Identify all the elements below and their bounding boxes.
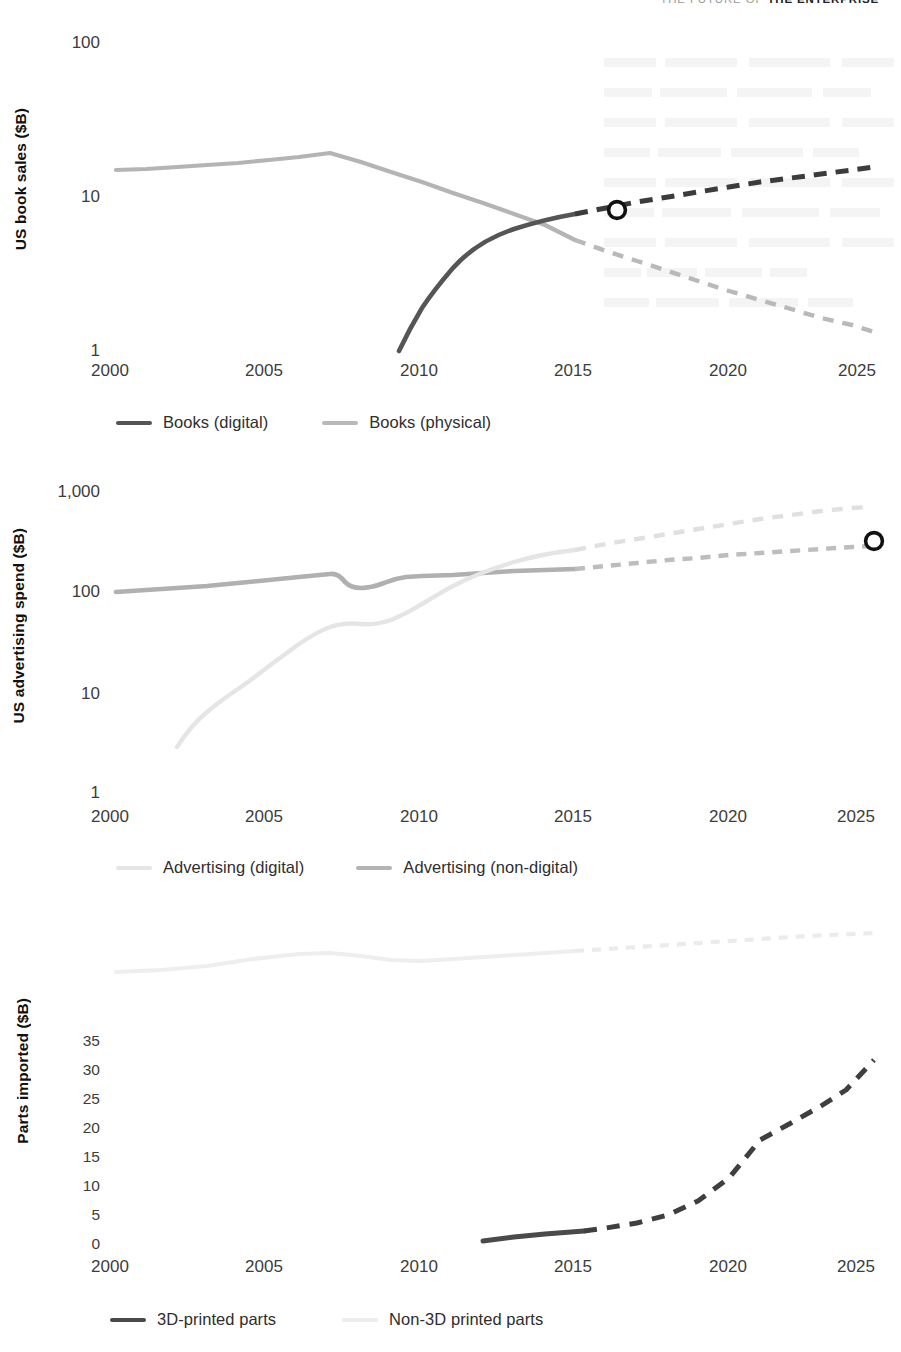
chart1-legend-swatch-books-physical <box>322 421 358 425</box>
chart1-series-books-digital-solid <box>399 214 575 351</box>
chart1-ytick-10: 10 <box>44 188 100 205</box>
chart2-plot-area <box>108 490 882 800</box>
chart-book-sales: US book sales ($B) 100 10 1 2000 2005 20… <box>0 0 901 450</box>
chart3-legend-swatch-non-3d-printed <box>342 1318 378 1322</box>
chart2-xtick-2015: 2015 <box>523 808 623 825</box>
chart3-ytick-20: 20 <box>52 1120 100 1136</box>
chart2-xtick-2025: 2025 <box>806 808 901 825</box>
chart2-series-advertising-digital-solid <box>177 550 575 747</box>
chart3-ytick-0: 0 <box>52 1236 100 1252</box>
chart2-series-advertising-nondigital-solid <box>116 569 575 592</box>
chart1-legend-item-books-digital[interactable]: Books (digital) <box>116 413 268 432</box>
chart3-ytick-5: 5 <box>52 1207 100 1223</box>
chart2-legend-label-advertising-digital: Advertising (digital) <box>163 858 304 877</box>
chart1-legend-label-books-digital: Books (digital) <box>163 413 268 432</box>
chart3-xtick-2000: 2000 <box>60 1258 160 1275</box>
chart1-xtick-2020: 2020 <box>678 362 778 379</box>
chart2-xtick-2010: 2010 <box>369 808 469 825</box>
chart3-xtick-2015: 2015 <box>523 1258 623 1275</box>
chart3-series-3d-printed-solid <box>483 1231 584 1241</box>
chart2-xtick-2000: 2000 <box>60 808 160 825</box>
chart3-xtick-2005: 2005 <box>214 1258 314 1275</box>
chart1-ytick-1: 1 <box>44 342 100 359</box>
chart1-series-books-physical-solid <box>116 153 575 240</box>
chart2-ytick-10: 10 <box>30 685 100 702</box>
chart1-series-books-physical-forecast <box>575 240 874 332</box>
chart3-legend-label-non-3d-printed: Non-3D printed parts <box>389 1310 543 1329</box>
chart3-series-non3d-forecast <box>575 933 874 951</box>
chart-parts-imported: Parts imported ($B) 35 30 25 20 15 10 5 … <box>0 910 901 1352</box>
chart2-xtick-2005: 2005 <box>214 808 314 825</box>
chart3-upper-series-area <box>108 928 882 998</box>
chart3-xtick-2020: 2020 <box>678 1258 778 1275</box>
chart-advertising-spend: US advertising spend ($B) 1,000 100 10 1… <box>0 450 901 910</box>
chart2-y-axis-title: US advertising spend ($B) <box>10 528 28 723</box>
chart2-series-advertising-nondigital-forecast <box>575 546 870 569</box>
chart1-legend-label-books-physical: Books (physical) <box>369 413 491 432</box>
chart3-ytick-35: 35 <box>52 1033 100 1049</box>
chart2-ytick-1: 1 <box>30 784 100 801</box>
chart1-crossover-marker <box>609 202 626 219</box>
chart3-legend-label-3d-printed: 3D-printed parts <box>157 1310 276 1329</box>
chart3-series-non3d-solid <box>116 951 575 972</box>
chart1-ytick-100: 100 <box>44 34 100 51</box>
chart2-legend-swatch-advertising-nondigital <box>356 866 392 870</box>
chart1-xtick-2010: 2010 <box>369 362 469 379</box>
chart3-xtick-2010: 2010 <box>369 1258 469 1275</box>
chart1-xtick-2000: 2000 <box>60 362 160 379</box>
chart3-ytick-10: 10 <box>52 1178 100 1194</box>
chart2-legend-item-advertising-digital[interactable]: Advertising (digital) <box>116 858 304 877</box>
chart3-plot-area <box>108 1038 882 1248</box>
chart3-ytick-30: 30 <box>52 1062 100 1078</box>
chart2-xtick-2020: 2020 <box>678 808 778 825</box>
chart2-legend-item-advertising-nondigital[interactable]: Advertising (non-digital) <box>356 858 578 877</box>
chart3-legend-swatch-3d-printed <box>110 1318 146 1322</box>
chart3-ytick-15: 15 <box>52 1149 100 1165</box>
chart2-legend-swatch-advertising-digital <box>116 866 152 870</box>
chart2-ytick-100: 100 <box>30 583 100 600</box>
chart1-xtick-2025: 2025 <box>807 362 901 379</box>
chart2-series-advertising-digital-forecast <box>575 507 868 550</box>
chart1-legend-swatch-books-digital <box>116 421 152 425</box>
chart3-series-3d-printed-forecast <box>584 1060 874 1231</box>
chart3-legend-item-non-3d-printed[interactable]: Non-3D printed parts <box>342 1310 543 1329</box>
chart3-y-axis-title: Parts imported ($B) <box>14 998 32 1144</box>
chart2-legend: Advertising (digital) Advertising (non-d… <box>116 858 578 877</box>
chart1-xtick-2015: 2015 <box>523 362 623 379</box>
chart2-crossover-marker <box>866 533 883 550</box>
chart2-ytick-1000: 1,000 <box>30 483 100 500</box>
chart1-xtick-2005: 2005 <box>214 362 314 379</box>
chart2-legend-label-advertising-nondigital: Advertising (non-digital) <box>403 858 578 877</box>
chart3-xtick-2025: 2025 <box>806 1258 901 1275</box>
chart3-legend-item-3d-printed[interactable]: 3D-printed parts <box>110 1310 276 1329</box>
chart3-legend: 3D-printed parts Non-3D printed parts <box>110 1310 543 1329</box>
page-canvas: THE FUTURE OF THE ENTERPRISE US book sal… <box>0 0 901 1352</box>
chart1-plot-area <box>108 42 882 357</box>
chart1-legend-item-books-physical[interactable]: Books (physical) <box>322 413 491 432</box>
chart3-ytick-25: 25 <box>52 1091 100 1107</box>
chart1-y-axis-title: US book sales ($B) <box>12 108 30 250</box>
chart1-legend: Books (digital) Books (physical) <box>116 413 491 432</box>
